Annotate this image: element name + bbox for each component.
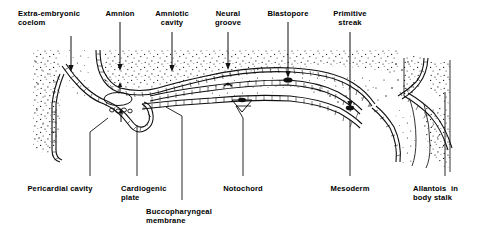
label-line-1: Neural [215, 9, 241, 18]
label-line-2: plate [121, 193, 167, 202]
label-line-2: streak [333, 18, 366, 27]
label-line-2: groove [215, 18, 241, 27]
label-line-2: body stalk [413, 193, 458, 202]
label-notochord: Notochord [223, 184, 263, 193]
label-neural-groove: Neuralgroove [215, 9, 241, 28]
label-line-1: Notochord [223, 184, 263, 193]
label-line-1: Allantois in [413, 184, 458, 193]
label-line-1: Amnion [105, 9, 134, 18]
label-line-2: coelom [18, 18, 80, 27]
label-line-1: Mesoderm [330, 184, 369, 193]
embryo-diagram-artwork [0, 0, 488, 242]
label-extra-embryonic-coelom: Extra-embryoniccoelom [18, 9, 80, 28]
label-line-2: cavity [155, 18, 189, 27]
blastopore-thickening [283, 77, 292, 82]
label-line-2: membrane [146, 216, 212, 225]
label-line-1: Amniotic [155, 9, 189, 18]
label-line-1: Cardiogenic [121, 184, 167, 193]
label-amnion: Amnion [105, 9, 134, 18]
label-mesoderm: Mesoderm [330, 184, 369, 193]
label-buccopharyngeal-membrane: Buccopharyngealmembrane [146, 207, 212, 226]
label-line-1: Pericardial cavity [27, 184, 92, 193]
label-primitive-streak: Primitivestreak [333, 9, 366, 28]
leader-pericardial-cavity [90, 118, 108, 176]
label-line-1: Buccopharyngeal [146, 207, 212, 216]
extra-embryonic-coelom-stipple [33, 50, 450, 168]
notochord-region [232, 98, 252, 112]
label-line-1: Blastopore [267, 9, 308, 18]
label-pericardial-cavity: Pericardial cavity [27, 184, 92, 193]
label-line-1: Extra-embryonic [18, 9, 80, 18]
label-line-1: Primitive [333, 9, 366, 18]
pericardial-cavity-outline [104, 93, 132, 106]
label-amniotic-cavity: Amnioticcavity [155, 9, 189, 28]
label-blastopore: Blastopore [267, 9, 308, 18]
leader-notochord [236, 106, 251, 176]
label-allantois-in-body-stalk: Allantois inbody stalk [413, 184, 458, 203]
embryo-sagittal-section-figure: Extra-embryoniccoelomAmnionAmnioticcavit… [0, 0, 488, 242]
leader-buccopharyngeal-membrane [166, 107, 182, 200]
label-cardiogenic-plate: Cardiogenicplate [121, 184, 167, 203]
